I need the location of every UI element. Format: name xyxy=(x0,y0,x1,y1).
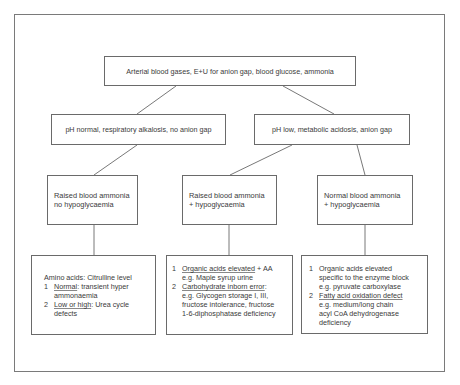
connector-right-to-cond2 xyxy=(230,145,292,175)
condition-line: Normal blood ammonia xyxy=(324,191,412,200)
connector-root-to-right xyxy=(283,86,334,114)
condition-line: Raised blood ammonia xyxy=(54,191,137,200)
root-label: Arterial blood gases, E+U for anion gap,… xyxy=(126,67,334,76)
outcome-box-amino-acids: Amino acids: Citrulline level 1 Normal: … xyxy=(31,255,156,335)
outcome-heading: Amino acids: Citrulline level xyxy=(44,273,155,282)
outcome-item: 1 Normal: transient hyper ammonaemia xyxy=(44,282,155,300)
root-box: Arterial blood gases, E+U for anion gap,… xyxy=(104,56,356,86)
condition-box-raised-ammonia-hypo: Raised blood ammonia + hypoglycaemia xyxy=(182,175,277,225)
outcome-item: 2 Low or high: Urea cycle defects xyxy=(44,300,155,318)
condition-line: + hypoglycaemia xyxy=(324,200,412,209)
outcome-item: 1 Organic acids elevated + AA e.g. Maple… xyxy=(172,264,292,282)
connector-root-to-left xyxy=(137,86,176,114)
connector-right-to-cond3 xyxy=(357,145,365,175)
outcome-box-organic-fatty-acid: 1 Organic acids elevated specific to the… xyxy=(301,255,428,334)
condition-line: no hypoglycaemia xyxy=(54,200,137,209)
connector-left-to-cond1 xyxy=(94,145,137,175)
branch-box-respiratory-alkalosis: pH normal, respiratory alkalosis, no ani… xyxy=(51,114,226,145)
condition-box-normal-ammonia-hypo: Normal blood ammonia + hypoglycaemia xyxy=(317,175,413,225)
condition-line: + hypoglycaemia xyxy=(189,200,276,209)
branch-label: pH normal, respiratory alkalosis, no ani… xyxy=(65,125,211,134)
outcome-box-organic-carbohydrate: 1 Organic acids elevated + AA e.g. Maple… xyxy=(166,255,293,335)
condition-box-raised-ammonia-no-hypo: Raised blood ammonia no hypoglycaemia xyxy=(47,175,138,225)
branch-box-metabolic-acidosis: pH low, metabolic acidosis, anion gap xyxy=(254,114,410,145)
condition-line: Raised blood ammonia xyxy=(189,191,276,200)
outcome-item: 2 Carbohydrate inborn error: e.g. Glycog… xyxy=(172,282,292,318)
outcome-item: 2 Fatty acid oxidation defect e.g. mediu… xyxy=(309,291,427,327)
outcome-item: 1 Organic acids elevated specific to the… xyxy=(309,264,427,291)
branch-label: pH low, metabolic acidosis, anion gap xyxy=(272,125,392,134)
